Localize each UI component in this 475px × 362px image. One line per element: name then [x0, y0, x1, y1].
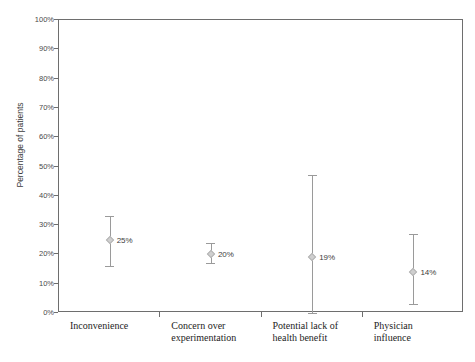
error-bar-cap-upper — [308, 175, 317, 176]
error-bar-cap-lower — [105, 266, 114, 267]
error-bar-cap-lower — [308, 313, 317, 314]
y-axis-tick-label: 80% — [18, 73, 54, 82]
x-axis-tick-mark — [362, 312, 363, 317]
y-axis-tick-label: 30% — [18, 220, 54, 229]
y-axis-title: Percentage of patients — [15, 65, 25, 225]
y-axis-tick-mark — [54, 312, 58, 313]
chart-page: Percentage of patients 0%10%20%30%40%50%… — [0, 0, 475, 362]
y-axis-tick-label: 100% — [18, 15, 54, 24]
x-axis-category-line: influence — [374, 332, 475, 344]
x-axis-category-line: Concern over — [171, 320, 272, 332]
x-axis-category-line: Inconvenience — [70, 320, 171, 332]
error-bar-cap-upper — [409, 234, 418, 235]
y-axis-tick-label: 20% — [18, 249, 54, 258]
data-point-marker — [105, 236, 113, 244]
y-axis-tick-label: 60% — [18, 132, 54, 141]
x-axis-category-line: experimentation — [171, 332, 272, 344]
x-axis-category-line: Potential lack of — [273, 320, 374, 332]
error-bar-line — [312, 175, 313, 313]
error-bar-cap-lower — [206, 263, 215, 264]
y-axis-tick-label: 50% — [18, 161, 54, 170]
x-axis-category-line: health benefit — [273, 332, 374, 344]
error-bar-cap-upper — [105, 216, 114, 217]
data-point-label: 14% — [420, 267, 436, 276]
y-axis-tick-label: 70% — [18, 102, 54, 111]
x-axis-category-line: Physician — [374, 320, 475, 332]
data-point-label: 25% — [117, 235, 133, 244]
x-axis-category-label: Potential lack ofhealth benefit — [273, 320, 374, 344]
x-axis-category-label: Inconvenience — [70, 320, 171, 332]
x-axis-category-label: Concern overexperimentation — [171, 320, 272, 344]
data-point-marker — [409, 268, 417, 276]
x-axis-tick-mark — [261, 312, 262, 317]
y-axis-tick-label: 40% — [18, 190, 54, 199]
data-point-marker — [308, 253, 316, 261]
error-bar-cap-upper — [206, 243, 215, 244]
plot-area: 25%20%19%14% — [58, 19, 463, 312]
y-axis-tick-label: 10% — [18, 278, 54, 287]
y-axis-tick-label: 0% — [18, 308, 54, 317]
x-axis-tick-mark — [159, 312, 160, 317]
data-point-label: 20% — [218, 250, 234, 259]
error-bar-cap-lower — [409, 304, 418, 305]
data-point-label: 19% — [319, 253, 335, 262]
data-point-marker — [207, 250, 215, 258]
x-axis-category-label: Physicianinfluence — [374, 320, 475, 344]
y-axis-tick-label: 90% — [18, 44, 54, 53]
